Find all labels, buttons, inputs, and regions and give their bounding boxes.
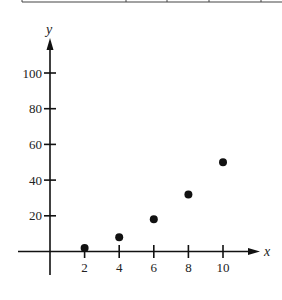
x-tick-label: 6 (151, 260, 158, 275)
x-tick-label: 2 (81, 260, 88, 275)
data-point (219, 158, 227, 166)
data-point (81, 244, 89, 252)
y-tick-label: 20 (29, 208, 42, 223)
x-axis-arrow-icon (248, 248, 260, 255)
y-tick-label: 60 (29, 137, 42, 152)
x-tick-label: 8 (185, 260, 192, 275)
data-point (115, 233, 123, 241)
x-axis-label: x (263, 244, 271, 259)
data-point (184, 190, 192, 198)
x-ticks: 246810 (81, 245, 229, 275)
table-fragment (22, 0, 282, 2)
y-tick-label: 100 (23, 66, 43, 81)
y-tick-label: 80 (29, 101, 42, 116)
data-points (81, 158, 227, 252)
y-tick-label: 40 (29, 173, 42, 188)
y-axis-label: y (44, 22, 53, 37)
scatter-chart: y x 246810 20406080100 (0, 0, 282, 300)
y-ticks: 20406080100 (23, 66, 57, 224)
x-tick-label: 4 (116, 260, 123, 275)
x-tick-label: 10 (217, 260, 230, 275)
data-point (150, 215, 158, 223)
y-axis-arrow-icon (47, 38, 54, 50)
